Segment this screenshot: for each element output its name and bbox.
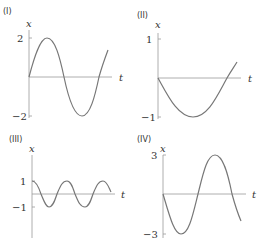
x-axis-label: t [119, 72, 124, 83]
y-tick-label: 1 [146, 34, 152, 45]
y-axis-label: x [26, 18, 32, 29]
panel-1: (I) x 2 −2 t [3, 7, 124, 122]
y-tick-label: −1 [12, 202, 27, 213]
y-axis-label: x [160, 143, 166, 154]
panel-3: (III) x 1 −1 t [9, 135, 126, 238]
y-axis-label: x [155, 19, 161, 30]
panel-label: (I) [3, 7, 12, 16]
panel-label: (II) [137, 11, 148, 20]
curve [163, 155, 241, 234]
curve [158, 62, 237, 117]
panel-4: (IV) x 3 −3 t [137, 135, 257, 240]
x-axis-label: t [252, 189, 257, 200]
panel-label: (III) [9, 135, 22, 144]
y-tick-label: −1 [141, 112, 156, 123]
y-tick-label: 3 [151, 150, 157, 161]
y-tick-label: 2 [17, 33, 23, 44]
x-axis-label: t [121, 189, 126, 200]
graphs-figure: (I) x 2 −2 t (II) x 1 −1 t (III) x 1 −1 … [0, 0, 263, 249]
panel-label: (IV) [137, 135, 151, 144]
y-tick-label: 1 [20, 176, 26, 187]
y-tick-label: −3 [143, 229, 158, 240]
x-axis-label: t [248, 73, 253, 84]
y-tick-label: −2 [12, 111, 27, 122]
y-axis-label: x [29, 143, 35, 154]
panel-2: (II) x 1 −1 t [137, 11, 253, 123]
